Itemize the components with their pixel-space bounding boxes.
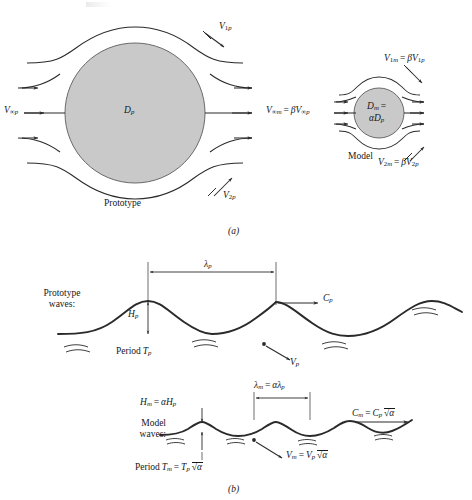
model-outflow-upper	[402, 97, 424, 102]
panel-a-caption: (a)	[228, 226, 239, 236]
prototype-height-label: Hp	[128, 310, 138, 320]
model-waves-line2: waves:	[140, 429, 166, 439]
prototype-particle-dot	[262, 342, 266, 346]
prototype-waves-line1: Prototype	[44, 288, 81, 298]
model-freestream-label: V∞m = βV∞p	[266, 106, 310, 116]
panel-b-caption: (b)	[228, 484, 239, 494]
prototype-celerity-label: Cp	[323, 294, 333, 304]
model-outflow-lower	[402, 124, 424, 129]
prototype-v1-label: V1p	[219, 22, 232, 32]
similarity-figure	[0, 0, 472, 500]
prototype-wave-profile	[58, 301, 462, 336]
prototype-outflow-lower	[210, 138, 252, 152]
model-water-hatches	[166, 435, 393, 446]
prototype-waves-line2: waves:	[49, 299, 75, 309]
model-inflow-upper	[334, 97, 356, 102]
prototype-velocity-arrow	[266, 346, 290, 360]
prototype-freestream-label: V∞p	[4, 106, 18, 116]
prototype-v2-label: V2p	[223, 191, 236, 201]
model-waves-line1: Model	[141, 418, 166, 428]
model-v2-label: V2m = βV2p	[378, 158, 419, 168]
prototype-wavelength-label: λp	[204, 260, 212, 270]
model-waves-label: Model waves:	[120, 418, 166, 441]
model-inflow-lower	[334, 124, 356, 129]
model-velocity-arrow	[256, 442, 282, 458]
model-caption-label: Model	[348, 152, 373, 162]
prototype-diameter-label: Dp	[124, 106, 134, 116]
model-velocity-label: Vm = Vp √α	[286, 450, 328, 461]
model-v1-label: V1m = βV1p	[384, 54, 425, 64]
prototype-waves-label: Prototype waves:	[30, 288, 94, 311]
prototype-inflow-upper	[18, 74, 60, 88]
panel-a-prototype	[18, 27, 252, 199]
prototype-caption-label: Prototype	[104, 199, 141, 209]
model-diameter-label: Dm = αDp	[367, 101, 386, 124]
prototype-sphere	[65, 43, 205, 183]
prototype-inflow-lower	[18, 138, 60, 152]
model-celerity-label: Cm = Cp √α	[352, 408, 395, 419]
prototype-outflow-upper	[210, 74, 252, 88]
prototype-v1-arrow	[205, 33, 224, 47]
model-period-label: Period Tm = Tp √α	[135, 462, 203, 473]
prototype-period-label: Period Tp	[116, 347, 151, 357]
model-height-label: Hm = αHp	[140, 398, 176, 408]
model-wavelength-label: λm = αλp	[254, 381, 285, 391]
prototype-velocity-label: Vp	[290, 358, 299, 368]
model-v1-arrow	[406, 67, 422, 83]
model-particle-dot	[252, 438, 256, 442]
